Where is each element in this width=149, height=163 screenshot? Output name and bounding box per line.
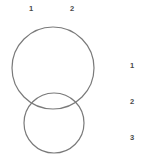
figure-canvas: 1 2 1 2 3 [0,0,149,163]
column-label-2: 2 [70,5,74,13]
upper-circle [12,27,94,109]
row-label-3: 3 [130,134,134,142]
circles-diagram [0,0,149,163]
row-label-2: 2 [130,98,134,106]
row-label-1: 1 [130,62,134,70]
lower-circle [24,93,84,153]
column-label-1: 1 [29,5,33,13]
